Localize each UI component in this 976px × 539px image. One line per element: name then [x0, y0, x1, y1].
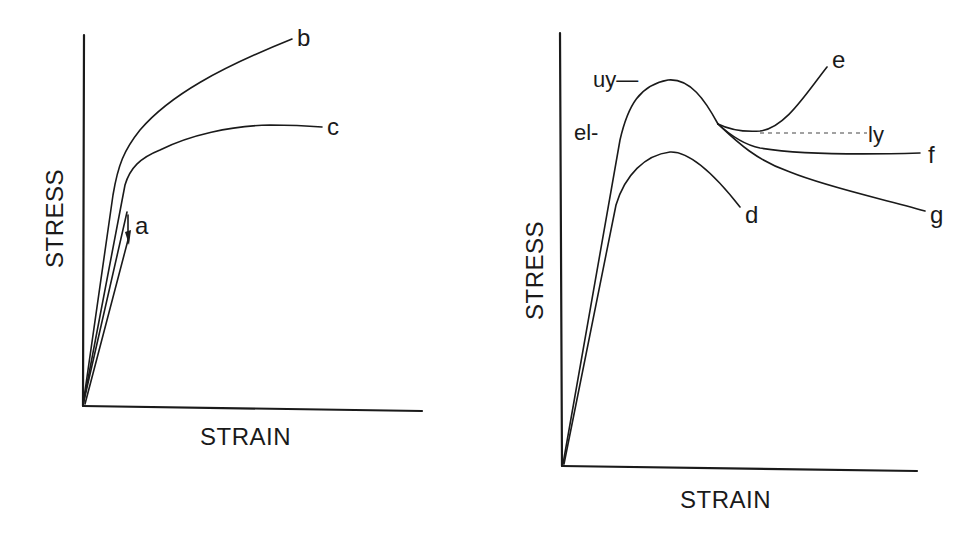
curve-a	[83, 212, 127, 405]
label-c: c	[327, 113, 339, 140]
label-g: g	[930, 201, 943, 228]
label-el: el-	[574, 120, 598, 145]
curve-e	[718, 67, 827, 131]
label-ly: ly	[868, 122, 884, 147]
curve-g	[718, 124, 925, 211]
right-x-axis	[562, 466, 917, 471]
label-e: e	[832, 46, 845, 73]
left-x-axis-label: STRAIN	[200, 423, 291, 450]
label-uy: uy—	[593, 67, 638, 92]
left-y-axis-label: STRESS	[41, 169, 68, 268]
label-b: b	[297, 24, 310, 51]
curve-b	[83, 39, 292, 405]
left-panel: b c a STRAIN STRESS	[41, 24, 422, 450]
right-panel: uy— el- ly e f g d STRAIN STRESS	[521, 33, 943, 513]
curve-a-return	[85, 240, 128, 404]
stress-strain-figure: b c a STRAIN STRESS uy— el- ly e f g d S…	[0, 0, 976, 539]
left-x-axis	[83, 406, 422, 411]
right-y-axis-label: STRESS	[521, 221, 548, 320]
label-a: a	[135, 212, 149, 239]
right-y-axis	[560, 33, 562, 466]
left-y-axis	[83, 35, 84, 406]
label-d: d	[745, 201, 758, 228]
right-x-axis-label: STRAIN	[680, 486, 771, 513]
label-f: f	[928, 141, 935, 168]
